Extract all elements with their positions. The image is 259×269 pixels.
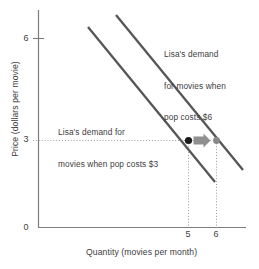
annotation-demand-pop3-line1: Lisa's demand for — [58, 127, 158, 138]
y-tick-label-0: 0 — [20, 222, 32, 232]
y-tick-label-3: 3 — [20, 134, 32, 144]
x-tick-label-5: 5 — [182, 229, 194, 239]
y-tick-label-6: 6 — [20, 33, 32, 43]
x-axis-title: Quantity (movies per month) — [86, 247, 197, 257]
annotation-demand-pop6-line1: Lisa's demand — [164, 49, 226, 60]
x-tick-label-6: 6 — [210, 229, 222, 239]
annotation-demand-pop3: Lisa's demand for movies when pop costs … — [58, 106, 158, 190]
annotation-demand-pop6-line2: for movies when — [164, 81, 226, 92]
y-axis-title: Price (dollars per movie) — [10, 47, 20, 171]
annotation-demand-pop3-line2: movies when pop costs $3 — [58, 159, 158, 170]
annotation-demand-pop6: Lisa's demand for movies when pop costs … — [164, 28, 226, 144]
demand-curve-shift-chart: Price (dollars per movie) Quantity (movi… — [0, 0, 259, 269]
annotation-demand-pop6-line3: pop costs $6 — [164, 112, 226, 123]
